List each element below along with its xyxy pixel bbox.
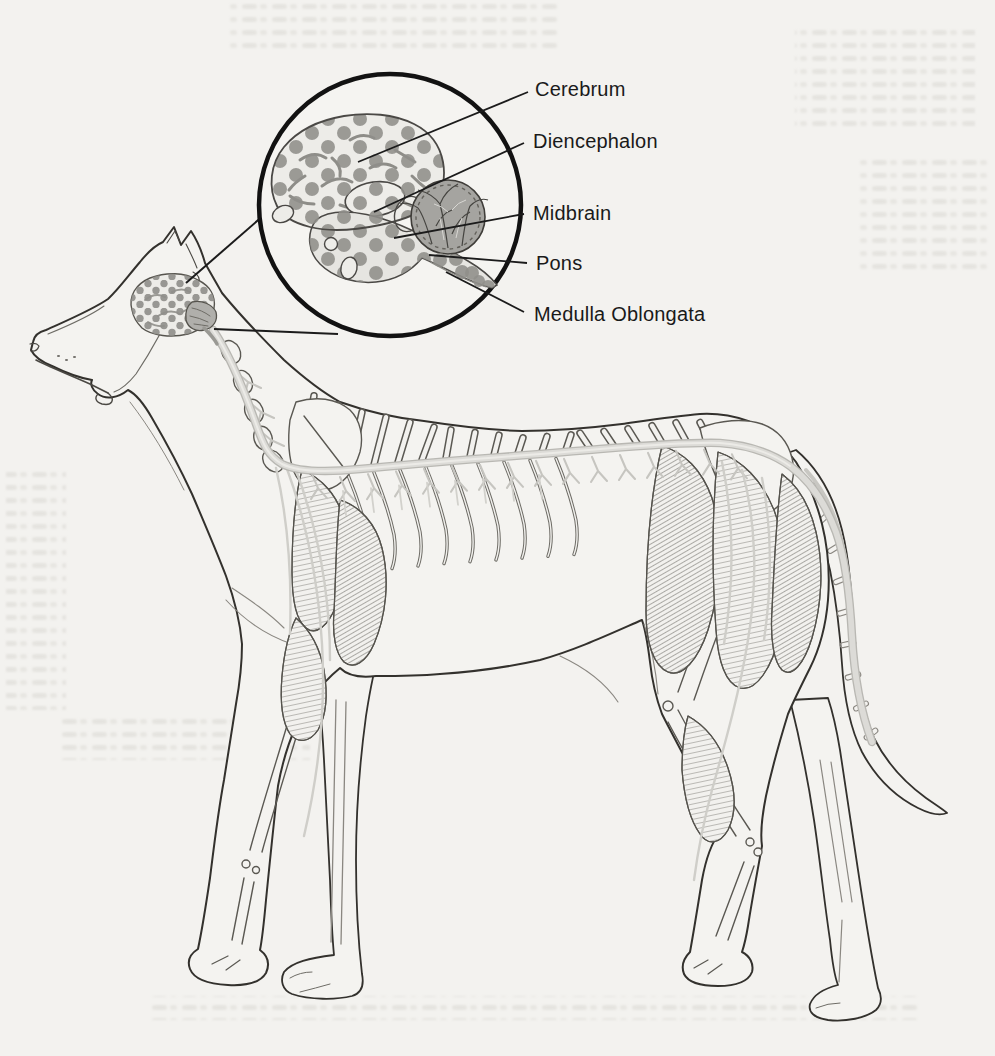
pituitary	[325, 238, 338, 251]
tarsus	[754, 848, 762, 856]
dog-nervous-system-figure: Cerebrum Diencephalon Midbrain Pons Medu…	[0, 0, 995, 1056]
label-cerebrum: Cerebrum	[535, 78, 626, 100]
carpus	[242, 860, 250, 868]
label-midbrain: Midbrain	[533, 202, 611, 224]
carpus	[253, 867, 260, 874]
patella	[663, 701, 673, 711]
label-medulla-oblongata: Medulla Oblongata	[534, 303, 706, 325]
tarsus	[746, 838, 754, 846]
label-diencephalon: Diencephalon	[533, 130, 658, 152]
label-pons: Pons	[536, 252, 582, 274]
book-page: Cerebrum Diencephalon Midbrain Pons Medu…	[0, 0, 995, 1056]
